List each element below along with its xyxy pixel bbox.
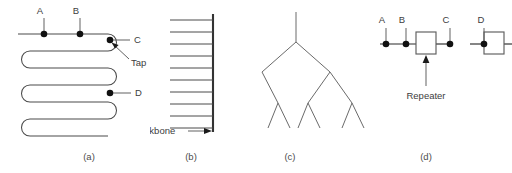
panel-d-caption: (d) (420, 151, 432, 162)
panel-a-label-c: C (134, 34, 141, 45)
tree-branch-l2-rightright (330, 72, 352, 103)
tree-leaf (268, 103, 278, 128)
tap-node-d (107, 90, 114, 97)
repeater-arrow-head (423, 55, 430, 63)
panel-b-label-backbone: Backbone (150, 125, 175, 136)
backbone-arrow-head (204, 128, 212, 134)
panel-c-tree: (c) (248, 0, 378, 173)
tap-node-c (107, 37, 114, 44)
station-node-a (383, 41, 390, 48)
tree-branch-l1-left (262, 42, 296, 72)
panel-a-label-d: D (135, 87, 142, 98)
panel-d-label-a: A (379, 14, 386, 25)
network-topology-figure: A B C D Tap (a) Backbone (b) (0, 0, 512, 173)
panel-d-label-repeater: Repeater (406, 90, 445, 101)
panel-a-label-a: A (37, 5, 44, 16)
tree-leaf (278, 103, 290, 128)
tree-leaf (298, 103, 308, 128)
panel-d-label-d: D (478, 14, 485, 25)
panel-d-label-b: B (399, 14, 405, 25)
tap-node-a (41, 31, 48, 38)
panel-c-caption: (c) (284, 151, 295, 162)
panel-a-label-b: B (73, 5, 79, 16)
tap-node-b (77, 31, 84, 38)
tree-branch-l2-rightleft (308, 72, 330, 103)
repeater-box-1 (416, 32, 436, 54)
panel-b-caption: (b) (185, 151, 197, 162)
tree-branch-l2-left (262, 72, 278, 103)
tree-branch-l1-right (296, 42, 330, 72)
panel-b-backbone: Backbone (b) (150, 0, 260, 173)
station-node-b (403, 41, 410, 48)
panel-a-label-tap: Tap (131, 57, 146, 68)
panel-d-bus-repeaters: A B C D Repeater (d) (368, 0, 512, 173)
panel-a-caption: (a) (83, 151, 95, 162)
tree-leaf (342, 103, 352, 128)
tree-leaf (308, 103, 320, 128)
tree-leaf (352, 103, 364, 128)
station-node-d (481, 41, 488, 48)
serpentine-cable (18, 34, 117, 136)
station-node-c (447, 41, 454, 48)
panel-d-label-c: C (443, 14, 450, 25)
